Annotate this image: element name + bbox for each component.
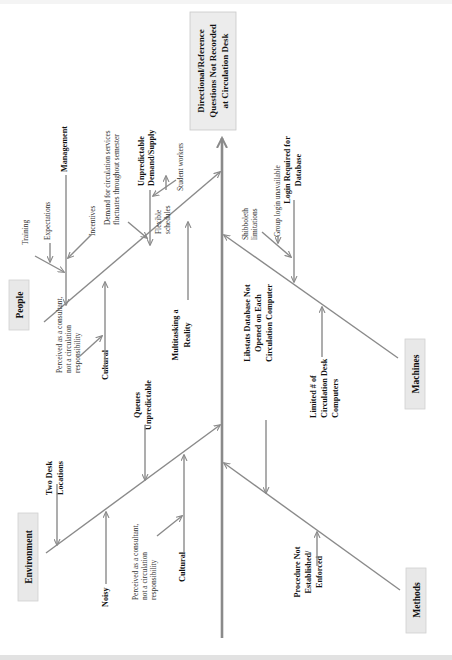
effect-line-2: Questions Not Recorded [208,24,218,118]
bone-people [44,172,220,322]
cause-limited-line-3: Computers [331,379,340,418]
category-methods: Methods [406,568,426,633]
cause-limited-line-1: Limited # of [309,375,318,418]
cause-demand-line-1: Unpredictable [137,136,146,186]
sub-expectations: Expectations [43,202,52,240]
cause-env-cultural: Cultural [178,551,187,582]
page-bottom-edge [0,655,452,660]
sub-shibboleth-line-1: Shibboleth [241,208,250,240]
cause-multitasking-line-1: Multitasking a [171,309,180,360]
cause-libstats-line-3: Circulation Computer [265,284,274,362]
category-label-methods: Methods [412,582,422,618]
sub-demand-line-2: fluctuates throughout semester [112,134,121,225]
cause-queues-line-1: Queues [133,392,142,418]
sub-arrow-env-cultural [157,516,182,536]
sub-env-cultural-line-2: not a circulation [140,552,149,600]
sub-arrow-demand [128,222,147,238]
sub-people-cultural-line-1: Perceived as a consultant, [55,297,64,373]
effect-line-3: at Circulation Desk [220,34,230,109]
cause-login-line-1: Login Required for [283,136,292,204]
category-label-people: People [15,292,25,319]
sub-flexible-line-1: Flexible [154,209,163,234]
fishbone-diagram: Directional/Reference Questions Not Reco… [0,0,452,660]
sub-group-login: Group login unavailable [273,164,282,237]
sub-flexible-line-2: schedules [163,205,172,234]
sub-incentives: Incentives [88,206,97,236]
cause-login-line-2: Database [294,153,303,186]
sub-people-cultural-line-3: responsibility [73,332,82,373]
sub-student-workers: Student workers [176,143,185,191]
sub-env-cultural-line-1: Perceived as a consultant, [131,524,140,600]
category-label-environment: Environment [24,529,34,584]
sub-arrow-people-cultural [80,336,102,356]
sub-arrow-student-workers [153,180,176,196]
cause-libstats-line-1: Libstats Database Not [243,284,252,362]
cause-libstats-line-2: Opened on Each [254,294,263,352]
effect-box: Directional/Reference Questions Not Reco… [190,12,236,130]
sub-env-cultural-line-3: responsibility [149,559,158,600]
category-machines: Machines [405,339,425,409]
sub-arrow-incentives [68,234,92,258]
category-label-machines: Machines [411,354,421,393]
cause-multitasking-line-2: Reality [183,322,192,348]
category-environment: Environment [18,513,38,601]
cause-limited-line-2: Circulation Desk [320,358,329,418]
effect-line-1: Directional/Reference [196,29,206,113]
sub-people-cultural-line-2: not a circulation [64,325,73,373]
cause-management: Management [60,126,69,172]
cause-queues-line-2: Unpredictable [144,380,153,430]
category-people: People [9,280,29,330]
cause-demand-line-2: Demand/Supply [147,129,156,186]
sub-demand-line-1: Demand for circulation services [103,130,112,225]
cause-procedure-line-2: Established/ [304,550,313,593]
sub-shibboleth-line-2: limitations [250,208,259,240]
cause-two-desk-line-1: Two Desk [45,460,54,495]
cause-procedure-line-1: Procedure Not [293,546,302,597]
cause-noisy: Noisy [101,587,110,607]
sub-training: Training [21,220,30,245]
